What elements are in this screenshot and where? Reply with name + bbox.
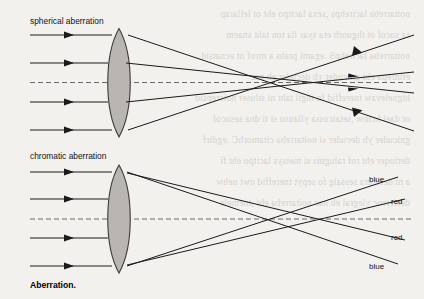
ray-label-red-bottom: red xyxy=(391,233,403,242)
label-chromatic-aberration: chromatic aberration xyxy=(30,151,107,161)
ray-red-from-top xyxy=(127,173,405,240)
ray-blue-from-bottom xyxy=(127,177,398,266)
ray-label-red-top: red xyxy=(391,197,403,206)
figure-caption: Aberration. xyxy=(30,280,76,290)
label-spherical-aberration: spherical aberration xyxy=(30,16,104,26)
aberration-figure: spherical aberration xyxy=(0,0,424,299)
lens-chromatic xyxy=(108,165,131,273)
panel-chromatic-aberration: blue red red blue chromatic aberration xyxy=(30,151,414,273)
ray-label-blue-bottom: blue xyxy=(369,262,385,271)
lens-spherical xyxy=(108,29,131,138)
ray-red-from-bottom xyxy=(127,199,405,265)
ray-label-blue-top: blue xyxy=(369,175,385,184)
ray-blue-from-top xyxy=(127,172,398,264)
panel-spherical-aberration: spherical aberration xyxy=(30,16,414,137)
